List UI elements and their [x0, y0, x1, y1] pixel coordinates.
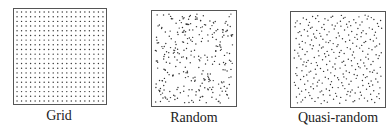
random-label: Random: [134, 110, 254, 126]
sample-points: [291, 12, 385, 107]
quasi-random-label: Quasi-random: [278, 110, 392, 126]
sample-points: [14, 9, 106, 104]
quasi-random-sample-box: [290, 11, 386, 108]
random-sample-box: [151, 10, 237, 107]
grid-sample-box: [13, 8, 107, 105]
sample-points: [152, 11, 236, 106]
grid-label: Grid: [0, 108, 119, 124]
